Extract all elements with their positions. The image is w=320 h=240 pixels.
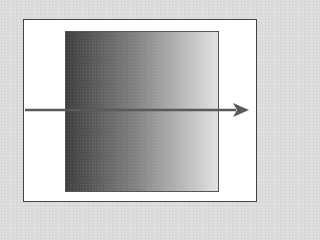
arrow-right-icon: [0, 0, 278, 208]
